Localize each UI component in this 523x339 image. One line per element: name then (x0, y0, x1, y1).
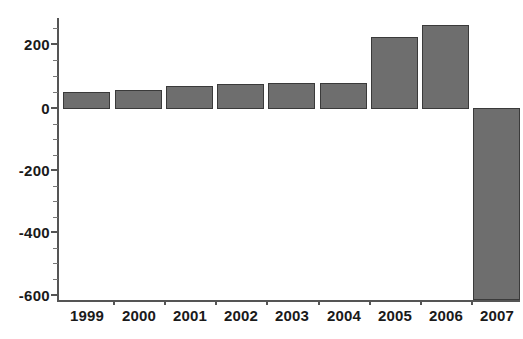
y-axis-labels: 200 0 -200 -400 -600 (0, 0, 50, 339)
bar-2003 (268, 83, 315, 109)
bar-2001 (166, 86, 213, 109)
bar-chart: 200 0 -200 -400 -600 (0, 0, 523, 339)
y-tick-label: 0 (41, 100, 50, 117)
x-tick-label-2006: 2006 (429, 307, 463, 324)
x-tick-label-2001: 2001 (173, 307, 207, 324)
y-tick-label: -600 (19, 287, 50, 304)
y-tick-label: 200 (24, 36, 50, 53)
bar-2000 (115, 90, 162, 109)
bar-1999 (63, 92, 110, 109)
bar-2004 (320, 83, 367, 109)
x-tick-label-2005: 2005 (378, 307, 412, 324)
bar-2007 (473, 108, 520, 300)
x-tick-label-2007: 2007 (480, 307, 514, 324)
x-tick-label-1999: 1999 (70, 307, 104, 324)
bar-2002 (217, 84, 264, 109)
y-tick-label: -200 (19, 162, 50, 179)
bar-2005 (371, 37, 418, 109)
y-tick-label: -400 (19, 224, 50, 241)
bar-2006 (422, 25, 469, 109)
x-tick-label-2004: 2004 (327, 307, 361, 324)
plot-area (57, 0, 523, 339)
x-tick-label-2002: 2002 (224, 307, 258, 324)
x-tick-label-2000: 2000 (122, 307, 156, 324)
x-tick-label-2003: 2003 (275, 307, 309, 324)
